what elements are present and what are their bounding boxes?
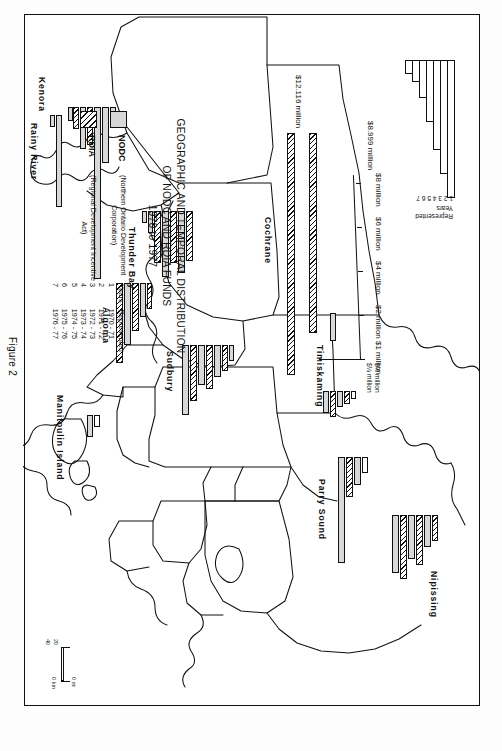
years-row: 1 1970 - 71 — [107, 283, 116, 358]
district-label-cochrane: Cochrane — [263, 217, 273, 264]
legend-desc-rdia-line1: (Regional Development Incentive — [89, 175, 98, 281]
bar — [338, 457, 345, 563]
bar — [132, 283, 139, 331]
year-span: 1971 - 72 — [97, 309, 106, 358]
year-index: 2 — [97, 283, 106, 309]
bar — [222, 345, 228, 371]
bar — [351, 391, 356, 399]
year-span: 1973 - 74 — [79, 309, 88, 358]
legend-desc-nodc: (Northern Ontario Development Corporatio… — [110, 175, 127, 275]
years-legend: Years Represented 1 1970 - 71 2 1971 - 7… — [51, 283, 127, 358]
inset-x-ticks: 1 2 3 4 5 6 7 — [416, 195, 453, 202]
scale-bar: 20 0 mi 40 0 km — [41, 639, 81, 697]
bar — [94, 415, 100, 427]
map-legend: NODC (Northern Ontario Development Corpo… — [67, 111, 127, 281]
year-index: 1 — [107, 283, 116, 309]
year-index: 3 — [88, 283, 97, 309]
year-span: 1972 - 73 — [88, 309, 97, 358]
figure-frame: $8.999 million $8 million $6 million $4 … — [24, 14, 480, 706]
rotated-figure-container: $8.999 million $8 million $6 million $4 … — [0, 0, 502, 751]
title-line-3: 1970 to 1977 — [145, 111, 159, 361]
district-label-nipissing: Nipissing — [429, 571, 439, 618]
district-label-kenora: Kenora — [37, 77, 47, 112]
rdia-swatch-icon — [80, 111, 97, 128]
axis-label-2m: $2 million — [374, 305, 383, 339]
bar — [354, 457, 361, 485]
bar — [424, 515, 431, 547]
bar — [416, 515, 423, 565]
year-index: 5 — [69, 283, 78, 309]
axis-label-4m: $4 million — [374, 261, 383, 295]
bar — [346, 457, 353, 497]
years-row: 7 1976 - 77 — [51, 283, 60, 358]
district-label-manitoulin: Manitoulin Island — [55, 395, 65, 480]
bar — [56, 115, 62, 207]
bar — [214, 345, 221, 377]
year-span: 1976 - 77 — [51, 309, 60, 358]
legend-key-nodc: NODC — [117, 135, 127, 169]
bar — [206, 345, 213, 389]
axis-label-8m: $8 million — [374, 173, 383, 207]
scale-label-mi-zero: 0 mi — [71, 677, 77, 688]
years-row: 3 1972 - 73 — [88, 283, 97, 358]
year-span: 1970 - 71 — [107, 309, 116, 358]
legend-desc-rdia-line2: Act) — [80, 175, 89, 281]
axis-label-half-m: $½ million — [374, 363, 381, 393]
years-row: 6 1975 - 76 — [60, 283, 69, 358]
bar — [344, 391, 350, 404]
bar — [190, 345, 197, 401]
bar — [362, 457, 368, 473]
year-span: 1975 - 76 — [60, 309, 69, 358]
legend-desc-nodc-line1: (Northern Ontario Development — [119, 175, 128, 275]
axis-label-6m: $6 million — [374, 217, 383, 251]
district-label-rainy-river: Rainy River — [29, 123, 39, 180]
axis-label-quarter-m: $¼ million — [366, 363, 373, 393]
legend-desc-rdia: (Regional Development Incentive Act) — [80, 175, 97, 281]
figure-page: $8.999 million $8 million $6 million $4 … — [0, 0, 502, 751]
bar — [400, 515, 407, 579]
bar — [198, 345, 205, 385]
years-header-col2: Represented — [116, 309, 127, 358]
scale-label-km-zero: 0 km — [51, 677, 57, 689]
title-line-2: OF NODC AND RDIA FUNDS — [159, 111, 173, 361]
year-span: 1974 - 75 — [69, 309, 78, 358]
title-line-1: GEOGRAPHIC AND TEMPORAL DISTRIBUTION — [173, 111, 187, 361]
district-label-timiskaming: Timiskaming — [315, 345, 325, 407]
inset-histogram: 1 2 3 4 5 6 7 Years Represented — [391, 60, 455, 210]
years-row: 2 1971 - 72 — [97, 283, 106, 358]
legend-key-rdia: RDIA — [87, 135, 97, 169]
bar — [432, 515, 438, 541]
inset-x-title-line1: Years — [436, 205, 453, 212]
scale-bar-rule — [61, 647, 64, 681]
bar — [330, 313, 336, 341]
legend-entry-nodc: NODC (Northern Ontario Development Corpo… — [110, 111, 127, 281]
legend-entry-rdia: RDIA (Regional Development Incentive Act… — [80, 111, 97, 281]
figure-caption: Figure 2 — [7, 337, 18, 376]
bar — [287, 133, 295, 375]
years-row: 4 1973 - 74 — [79, 283, 88, 358]
scale-label-mi-max: 20 — [53, 639, 59, 645]
scale-label-km-max: 40 — [45, 639, 51, 645]
bar — [337, 391, 343, 407]
district-label-thunder-bay: Thunder Bay — [127, 227, 137, 289]
years-header-col1: Years — [116, 283, 127, 309]
inset-x-title-line2: Represented — [415, 213, 453, 220]
bar — [186, 211, 193, 261]
year-index: 4 — [79, 283, 88, 309]
axis-label-8999: $8.999 million — [366, 121, 375, 170]
bar — [392, 515, 399, 573]
bar — [330, 391, 336, 417]
years-row: 5 1974 - 75 — [69, 283, 78, 358]
axis-label-12116: $12.116 million — [294, 75, 303, 128]
bar — [229, 345, 234, 361]
district-label-parry-sound: Parry Sound — [317, 479, 327, 540]
nodc-swatch-icon — [110, 111, 127, 128]
bar — [87, 415, 93, 437]
figure-title: GEOGRAPHIC AND TEMPORAL DISTRIBUTION OF … — [145, 111, 187, 361]
bar — [309, 133, 317, 333]
bar — [50, 115, 55, 127]
bar — [408, 515, 415, 559]
year-index: 6 — [60, 283, 69, 309]
year-index: 7 — [51, 283, 60, 309]
legend-desc-nodc-line2: Corporation) — [110, 175, 119, 275]
